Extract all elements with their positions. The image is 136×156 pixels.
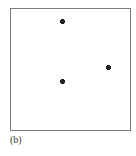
diagram-frame [10, 8, 131, 131]
figure-label: (b) [10, 134, 22, 146]
point-marker [60, 79, 65, 84]
point-marker [60, 19, 65, 24]
point-marker [106, 65, 111, 70]
